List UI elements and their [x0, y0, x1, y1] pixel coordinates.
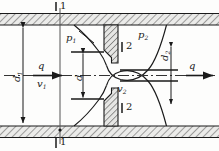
figure-canvas: 1 1 2 2 p1 p2 q v1 q v2 d1 d d2 — [0, 0, 219, 151]
section-label-1-top: 1 — [60, 1, 66, 11]
velocity-label-v1: v1 — [37, 79, 46, 89]
leader-p1 — [79, 31, 94, 43]
d2-base: d — [159, 55, 170, 61]
diameter-label-d2: d2 — [160, 51, 170, 61]
v2-base: v — [117, 83, 123, 94]
d2-subscript: 2 — [164, 51, 171, 55]
orifice-plate-lower — [104, 88, 118, 126]
diameter-label-d-orifice: d — [74, 75, 84, 81]
d1-subscript: 1 — [16, 72, 23, 76]
v2-subscript: 2 — [123, 88, 127, 95]
section-label-2-top: 2 — [126, 41, 132, 51]
flow-label-q-left: q — [38, 61, 44, 71]
v1-base: v — [37, 78, 43, 89]
v1-subscript: 1 — [43, 83, 47, 90]
flow-label-q-right: q — [189, 61, 195, 71]
orifice-plate-schematic — [0, 0, 219, 151]
p2-subscript: 2 — [144, 34, 148, 41]
velocity-label-v2: v2 — [117, 84, 126, 94]
d1-base: d — [11, 76, 22, 82]
pressure-label-p1: p1 — [66, 33, 76, 43]
section-label-1-bottom: 1 — [60, 137, 66, 147]
pipe-wall-bottom — [0, 126, 219, 138]
section-label-2-bottom: 2 — [126, 102, 132, 112]
diameter-label-d1: d1 — [12, 72, 22, 82]
pipe-wall-top — [0, 14, 219, 26]
orifice-plate-upper — [104, 25, 118, 63]
p1-subscript: 1 — [72, 37, 76, 44]
pressure-label-p2: p2 — [138, 30, 148, 40]
